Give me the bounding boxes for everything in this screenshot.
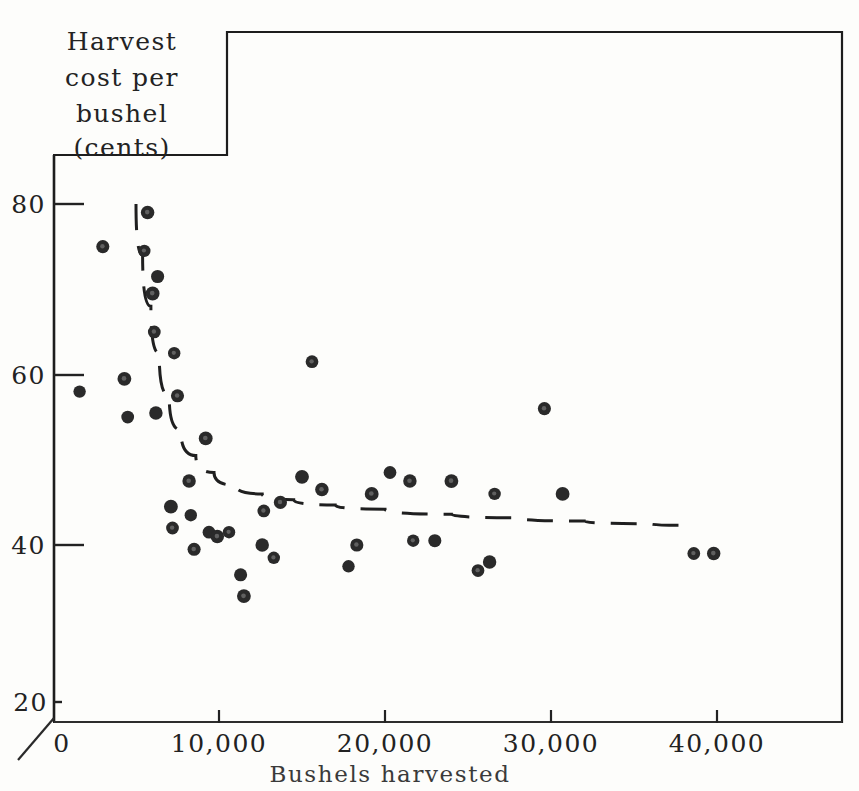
data-point [151, 270, 164, 283]
y-tick-label-20: 20 [13, 688, 48, 717]
data-point [138, 245, 150, 257]
data-point [444, 474, 458, 488]
data-point [199, 431, 213, 445]
data-point [488, 488, 500, 500]
data-point [149, 406, 162, 419]
data-point [171, 389, 184, 402]
data-point [306, 355, 319, 368]
data-point [295, 470, 309, 484]
data-point [483, 555, 496, 568]
x-tick-label-40000: 40,000 [669, 729, 765, 758]
y-tick-label-40: 40 [11, 531, 46, 560]
data-point [707, 547, 720, 560]
x-tick-label-20000: 20,000 [337, 729, 433, 758]
x-tick-label-10000: 10,000 [171, 729, 267, 758]
data-point [96, 240, 109, 253]
data-point [384, 466, 397, 479]
data-point [188, 543, 201, 556]
data-point [342, 560, 354, 572]
y-axis-title-line-2: cost per [65, 63, 179, 92]
chart-svg: 80 60 40 20 0 10,000 20,000 30,000 40,00… [0, 0, 859, 791]
data-point [146, 287, 160, 301]
data-point [538, 402, 551, 415]
data-point [274, 496, 287, 509]
data-point [141, 206, 154, 219]
y-tick-label-80: 80 [11, 190, 46, 219]
data-point [223, 526, 235, 538]
y-tick-marks [54, 204, 84, 702]
data-point [234, 568, 247, 581]
x-axis-title: Bushels harvested [269, 761, 510, 787]
data-point [148, 326, 161, 339]
scatter-chart-figure: 80 60 40 20 0 10,000 20,000 30,000 40,00… [0, 0, 859, 791]
data-point [117, 372, 131, 386]
data-point [315, 483, 328, 496]
data-point [403, 474, 416, 487]
y-axis-title-line-1: Harvest [67, 27, 177, 56]
y-tick-label-60: 60 [11, 361, 46, 390]
data-point [407, 535, 419, 547]
data-point [168, 347, 180, 359]
x-tick-label-0: 0 [53, 729, 70, 758]
y-axis-title-line-3: bushel [76, 99, 168, 128]
data-point [73, 385, 85, 397]
axis-break-mark [18, 718, 54, 760]
data-point [687, 547, 700, 560]
x-tick-label-30000: 30,000 [503, 729, 599, 758]
data-point [268, 552, 280, 564]
data-point [237, 589, 251, 603]
data-point [365, 487, 379, 501]
data-point [257, 505, 270, 518]
data-point [121, 411, 134, 424]
page-border [53, 32, 842, 722]
data-point [182, 474, 195, 487]
y-axis-title-line-4: (cents) [73, 133, 170, 162]
data-point [211, 530, 224, 543]
data-point [472, 564, 485, 577]
data-point [428, 534, 441, 547]
data-point [350, 538, 363, 551]
data-point [556, 487, 570, 501]
data-point [255, 538, 268, 551]
data-point [166, 522, 179, 535]
data-point [164, 500, 178, 514]
data-point [185, 509, 197, 521]
